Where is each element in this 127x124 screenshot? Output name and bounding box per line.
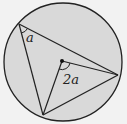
- inscribed-angle-diagram: a 2a: [0, 0, 127, 124]
- center-point: [60, 59, 64, 63]
- central-angle-label: 2a: [62, 72, 79, 87]
- inscribed-angle-label: a: [26, 30, 34, 45]
